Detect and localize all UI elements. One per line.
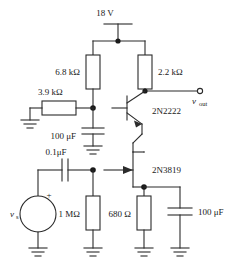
circuit-schematic: 18 V 6.8 kΩ 2.2 kΩ v out: [0, 0, 236, 273]
supply-voltage-label: 18 V: [96, 8, 114, 18]
resistor-3k9-body: [42, 101, 76, 115]
v-out-terminal-circle[interactable]: [197, 88, 202, 93]
resistor-3k9-group: [21, 101, 93, 128]
resistor-680-group: [135, 184, 153, 256]
capacitor-100uf-base-label: 100 μF: [50, 131, 76, 141]
resistor-6k8-group: [86, 55, 100, 108]
bjt-collector-lead: [127, 91, 145, 103]
jfet-gate-arrow: [123, 166, 133, 174]
capacitor-100uf-source-label: 100 μF: [198, 207, 224, 217]
resistor-2k2-body: [138, 55, 152, 89]
resistor-3k9-label: 3.9 kΩ: [38, 87, 63, 97]
resistor-1m-label: 1 MΩ: [59, 209, 81, 219]
v-s-label-sub: s: [16, 213, 19, 220]
resistor-6k8-body: [86, 55, 100, 89]
resistor-2k2-group: [138, 55, 152, 91]
v-out-label-main: v: [192, 96, 196, 106]
circuit-diagram-page: 18 V 6.8 kΩ 2.2 kΩ v out: [0, 0, 236, 273]
v-out-label-sub: out: [199, 100, 208, 107]
v-out-label-group: v out: [192, 96, 208, 107]
resistor-6k8-label: 6.8 kΩ: [55, 67, 80, 77]
supply-node-dot: [115, 38, 120, 43]
bjt-emitter-jog-wire: [133, 134, 142, 143]
resistor-680-label: 680 Ω: [109, 209, 132, 219]
transistor-2n2222-group: [112, 91, 145, 152]
resistor-2k2-label: 2.2 kΩ: [158, 67, 183, 77]
resistor-1m-group: [84, 170, 102, 256]
bjt-emitter-lead: [127, 113, 142, 124]
source-polarity-label: +: [46, 190, 51, 200]
resistor-1m-body: [86, 196, 100, 230]
capacitor-100uf-base-group: [82, 108, 104, 154]
signal-source-circle: [20, 196, 56, 232]
resistor-680-body: [137, 196, 151, 230]
top-bus-group: [93, 38, 145, 55]
transistor-2n3819-label: 2N3819: [152, 165, 181, 175]
transistor-2n2222-label: 2N2222: [152, 106, 181, 116]
signal-source-group: [20, 196, 56, 256]
transistor-2n3819-group: [104, 152, 144, 187]
v-s-label-main: v: [10, 209, 14, 219]
capacitor-0p1uf-label: 0.1μF: [45, 147, 66, 157]
v-s-label-group: v s: [10, 209, 19, 220]
